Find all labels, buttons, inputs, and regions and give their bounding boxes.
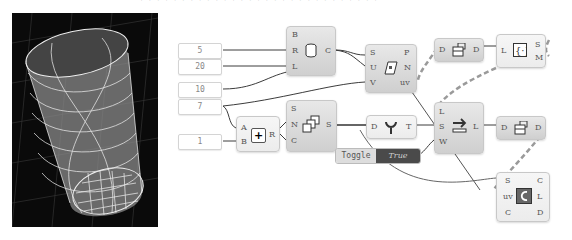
list-length-component[interactable]: L S M {·} <box>496 34 546 68</box>
port-c[interactable]: C <box>505 208 511 218</box>
divide-surface-icon <box>383 60 399 76</box>
port-n[interactable]: N <box>404 63 411 73</box>
port-w[interactable]: W <box>439 137 447 147</box>
graft-tree-component[interactable]: D T <box>366 115 417 139</box>
svg-text:{·}: {·} <box>515 45 527 56</box>
flip-matrix-icon <box>512 120 530 136</box>
plus-icon: + <box>251 128 266 143</box>
curve-on-surface-component[interactable]: S uv C C L D <box>496 172 550 222</box>
port-s[interactable]: S <box>505 176 510 186</box>
graft-tree-icon <box>383 119 399 135</box>
port-l[interactable]: L <box>292 62 297 72</box>
port-c[interactable]: C <box>291 136 297 146</box>
flip-matrix-icon <box>450 42 468 58</box>
series-icon <box>301 115 321 135</box>
port-l[interactable]: L <box>501 46 506 56</box>
port-s[interactable]: S <box>535 40 540 50</box>
curve-on-surface-icon <box>516 188 532 204</box>
cylinder-icon <box>304 42 318 58</box>
flip-matrix-component-mid[interactable]: D D <box>496 116 546 140</box>
toggle-value[interactable]: True <box>376 149 420 163</box>
port-c[interactable]: C <box>325 46 331 56</box>
port-n[interactable]: N <box>291 120 298 130</box>
toggle-label: Toggle <box>336 149 376 163</box>
port-b[interactable]: B <box>292 30 298 40</box>
number-input-20[interactable]: 20 <box>178 59 222 75</box>
boolean-toggle[interactable]: Toggle True <box>335 148 421 164</box>
port-p[interactable]: P <box>404 48 409 58</box>
port-r[interactable]: R <box>292 46 298 56</box>
addition-component[interactable]: A B R + <box>236 116 280 152</box>
port-uv[interactable]: uv <box>400 78 410 88</box>
port-c-out[interactable]: C <box>537 176 543 186</box>
port-b[interactable]: B <box>241 137 247 147</box>
port-t[interactable]: T <box>406 122 411 132</box>
list-brackets-icon: {·} <box>512 42 528 58</box>
port-d-out[interactable]: D <box>537 208 543 218</box>
port-s[interactable]: S <box>370 48 375 58</box>
shift-list-icon <box>451 117 469 135</box>
wire-7-to-a <box>223 106 236 128</box>
number-input-10[interactable]: 10 <box>178 82 222 98</box>
series-component[interactable]: S N C S <box>286 100 337 152</box>
number-input-7[interactable]: 7 <box>178 99 222 115</box>
port-m[interactable]: M <box>535 53 543 63</box>
port-d-in[interactable]: D <box>501 123 507 133</box>
divide-surface-component[interactable]: S U V P N uv <box>365 44 417 93</box>
shift-list-component[interactable]: L S W L <box>434 102 484 154</box>
number-input-5[interactable]: 5 <box>178 43 222 59</box>
port-l[interactable]: L <box>439 107 444 117</box>
port-a[interactable]: A <box>241 123 247 133</box>
port-l-out[interactable]: L <box>537 192 542 202</box>
port-d-in[interactable]: D <box>439 45 445 55</box>
port-d-out[interactable]: D <box>535 123 541 133</box>
port-s[interactable]: S <box>439 122 444 132</box>
port-r[interactable]: R <box>269 130 275 140</box>
port-d-out[interactable]: D <box>473 45 479 55</box>
port-s[interactable]: S <box>291 104 296 114</box>
port-l-out[interactable]: L <box>473 122 478 132</box>
number-input-1[interactable]: 1 <box>178 134 222 150</box>
port-u[interactable]: U <box>370 63 377 73</box>
port-d[interactable]: D <box>371 122 377 132</box>
port-uv[interactable]: uv <box>503 192 513 202</box>
wire-toggle-to-wrap <box>419 140 434 155</box>
cylinder-component[interactable]: B R L C <box>286 26 336 76</box>
flip-matrix-component-top[interactable]: D D <box>434 38 484 62</box>
port-s-out[interactable]: S <box>326 120 331 130</box>
port-v[interactable]: V <box>370 78 376 88</box>
